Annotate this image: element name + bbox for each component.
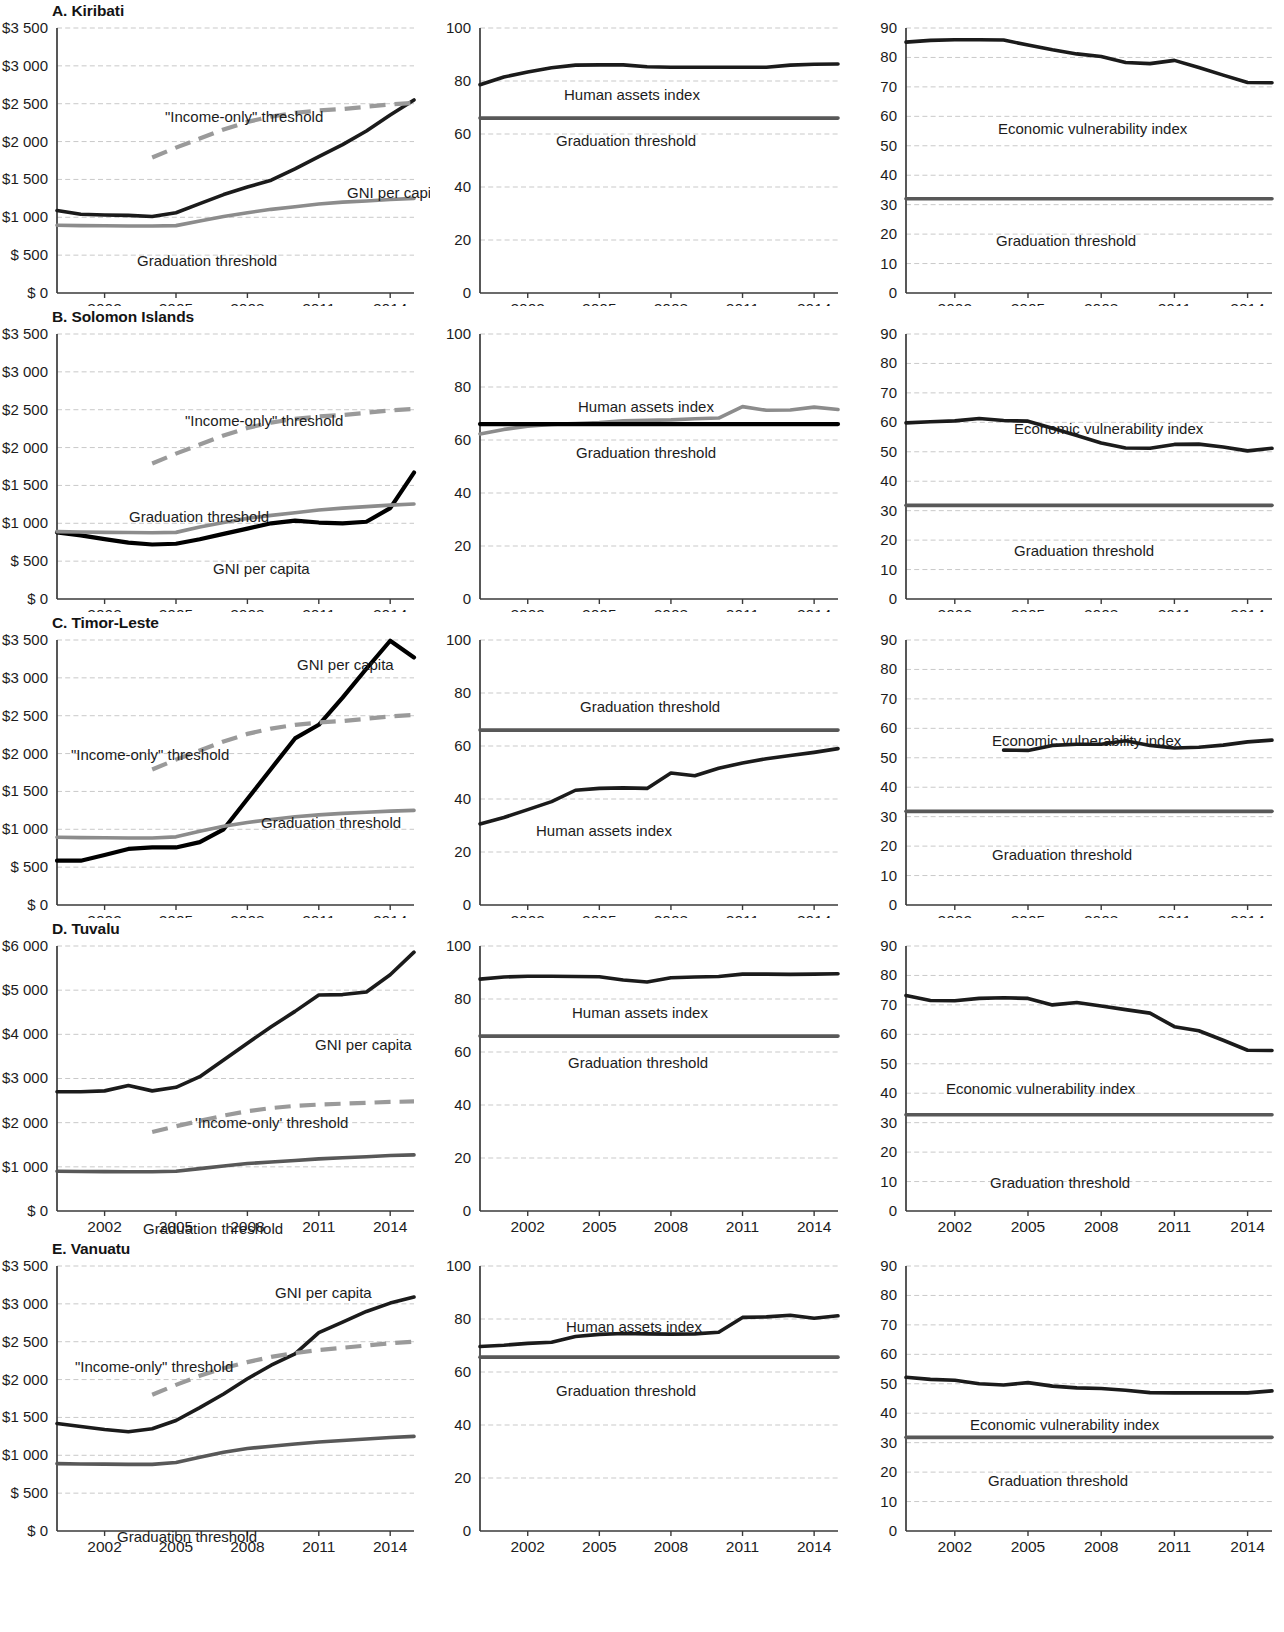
series-annotation-label: Economic vulnerability index [970,1416,1160,1433]
y-axis-tick-label: 20 [454,1469,471,1486]
y-axis-tick-label: $ 0 [27,896,48,913]
series-annotation-label: Human assets index [578,398,714,415]
series-annotation-label: Human assets index [536,822,672,839]
y-axis-tick-label: 40 [454,1096,471,1113]
series-annotation-label: Graduation threshold [568,1054,708,1071]
series-annotation-label: "Income-only" threshold [165,108,323,125]
y-axis-tick-label: 60 [880,1345,897,1362]
y-axis-tick-label: 30 [880,502,897,519]
y-axis-tick-label: 60 [454,737,471,754]
y-axis-tick-label: 70 [880,996,897,1013]
series-annotation-label: "Income-only" threshold [71,746,229,763]
series-line [480,974,838,982]
panel-title-a: A. Kiribati [52,2,124,20]
panel-title-e: E. Vanuatu [52,1240,130,1258]
y-axis-tick-label: 60 [880,107,897,124]
y-axis-tick-label: 0 [889,1202,897,1219]
series-annotation-label: Graduation threshold [143,1220,283,1237]
y-axis-tick-label: 20 [880,1143,897,1160]
y-axis-tick-label: 0 [463,1202,471,1219]
chart-panel-d-gni: D. Tuvalu$6 000$5 000$4 000$3 000$2 000$… [0,918,430,1238]
series-annotation-label: Economic vulnerability index [1014,420,1204,437]
x-axis-tick-label: 2014 [797,1538,832,1555]
chart-row-e: E. Vanuatu$3 500$3 000$2 500$2 000$1 500… [0,1238,1284,1618]
y-axis-tick-label: 80 [880,660,897,677]
y-axis-tick-label: 100 [446,937,471,954]
y-axis-tick-label: $ 500 [10,246,48,263]
y-axis-tick-label: 40 [880,1084,897,1101]
y-axis-tick-label: $1 000 [2,514,48,531]
chart-panel-e-hai: 10080604020020022005200820112014Human as… [430,1238,858,1618]
y-axis-tick-label: $6 000 [2,937,48,954]
y-axis-tick-label: $3 500 [2,631,48,648]
series-annotation-label: "Income-only" threshold [75,1358,233,1375]
y-axis-tick-label: 60 [880,719,897,736]
y-axis-tick-label: 0 [889,896,897,913]
y-axis-tick-label: 50 [880,1055,897,1072]
y-axis-tick-label: 90 [880,937,897,954]
y-axis-tick-label: $3 500 [2,325,48,342]
y-axis-tick-label: $2 000 [2,1114,48,1131]
x-axis-tick-label: 2002 [510,1538,544,1555]
series-annotation-label: Graduation threshold [996,232,1136,249]
chart-panel-d-hai: 10080604020020022005200820112014Human as… [430,918,858,1238]
y-axis-tick-label: 0 [463,590,471,607]
series-annotation-label: Graduation threshold [988,1472,1128,1489]
y-axis-tick-label: 60 [454,125,471,142]
y-axis-tick-label: $2 500 [2,1333,48,1350]
series-line [57,1436,414,1464]
y-axis-tick-label: $5 000 [2,981,48,998]
chart-panel-c-gni: C. Timor-Leste$3 500$3 000$2 500$2 000$1… [0,612,430,918]
y-axis-tick-label: $ 500 [10,858,48,875]
series-annotation-label: GNI per capita [347,184,430,201]
series-annotation-label: Economic vulnerability index [946,1080,1136,1097]
y-axis-tick-label: 70 [880,384,897,401]
y-axis-tick-label: 20 [880,531,897,548]
x-axis-tick-label: 2002 [938,1218,972,1235]
chart-panel-c-hai: 10080604020020022005200820112014Graduati… [430,612,858,918]
y-axis-tick-label: 80 [454,72,471,89]
x-axis-tick-label: 2014 [1230,1538,1265,1555]
y-axis-tick-label: 40 [454,790,471,807]
series-annotation-label: Human assets index [564,86,700,103]
x-axis-tick-label: 2011 [726,1218,759,1235]
y-axis-tick-label: $1 500 [2,782,48,799]
series-annotation-label: Graduation threshold [556,132,696,149]
y-axis-tick-label: 40 [454,484,471,501]
series-annotation-label: GNI per capita [315,1036,412,1053]
figure-sheet: A. Kiribati$3 500$3 000$2 500$2 000$1 50… [0,0,1284,1632]
y-axis-tick-label: 80 [454,1310,471,1327]
y-axis-tick-label: 10 [880,867,897,884]
y-axis-tick-label: $1 000 [2,208,48,225]
series-annotation-label: Graduation threshold [137,252,277,269]
y-axis-tick-label: $ 500 [10,552,48,569]
y-axis-tick-label: 90 [880,1257,897,1274]
y-axis-tick-label: $ 500 [10,1484,48,1501]
panel-title-c: C. Timor-Leste [52,614,159,632]
y-axis-tick-label: $2 500 [2,707,48,724]
y-axis-tick-label: 20 [454,843,471,860]
chart-panel-a-gni: A. Kiribati$3 500$3 000$2 500$2 000$1 50… [0,0,430,306]
y-axis-tick-label: 40 [880,166,897,183]
series-annotation-label: GNI per capita [275,1284,372,1301]
y-axis-tick-label: 20 [880,837,897,854]
x-axis-tick-label: 2008 [1084,1218,1118,1235]
y-axis-tick-label: 60 [454,1043,471,1060]
y-axis-tick-label: 40 [454,178,471,195]
series-annotation-label: Graduation threshold [117,1528,257,1545]
y-axis-tick-label: $1 000 [2,1158,48,1175]
x-axis-tick-label: 2002 [938,1538,972,1555]
y-axis-tick-label: $3 000 [2,363,48,380]
series-annotation-label: "Income-only" threshold [185,412,343,429]
x-axis-tick-label: 2005 [1011,1218,1045,1235]
y-axis-tick-label: 100 [446,19,471,36]
y-axis-tick-label: 40 [880,472,897,489]
y-axis-tick-label: 30 [880,808,897,825]
series-annotation-label: GNI per capita [213,560,310,577]
series-annotation-label: Graduation threshold [129,508,269,525]
series-annotation-label: Graduation threshold [992,846,1132,863]
y-axis-tick-label: 0 [889,590,897,607]
y-axis-tick-label: $2 500 [2,95,48,112]
y-axis-tick-label: 50 [880,749,897,766]
y-axis-tick-label: 80 [880,48,897,65]
